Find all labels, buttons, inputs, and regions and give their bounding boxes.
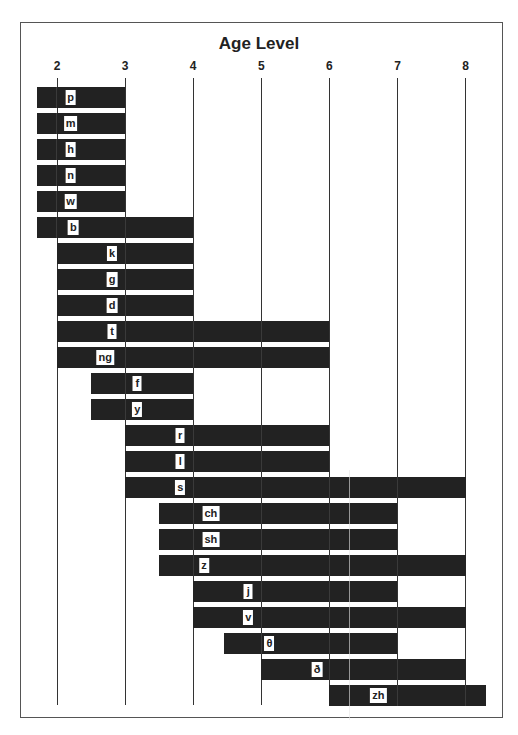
bar-grid-separator xyxy=(193,555,194,576)
bar-label: l xyxy=(176,454,185,469)
bar-grid-separator xyxy=(125,295,126,316)
bar-label: θ xyxy=(264,636,274,651)
bar-grid-separator xyxy=(329,529,330,550)
bar-grid-separator xyxy=(397,477,398,498)
bar-label: k xyxy=(107,246,117,261)
bar-grid-separator xyxy=(193,321,194,342)
range-bar: h xyxy=(37,139,126,160)
bar-grid-separator xyxy=(329,503,330,524)
bar-grid-separator xyxy=(329,659,330,680)
bar-label: m xyxy=(64,116,78,131)
range-bar: f xyxy=(91,373,193,394)
x-tick-label: 3 xyxy=(115,59,135,73)
bar-grid-separator xyxy=(125,243,126,264)
range-bar: l xyxy=(125,451,329,472)
bar-grid-separator xyxy=(397,685,398,706)
x-tick-label: 7 xyxy=(388,59,408,73)
range-bar: s xyxy=(125,477,466,498)
bar-grid-separator xyxy=(125,347,126,368)
bar-grid-separator xyxy=(125,321,126,342)
bar-grid-separator xyxy=(261,529,262,550)
bar-label: h xyxy=(65,142,76,157)
x-tick-label: 8 xyxy=(456,59,476,73)
bar-grid-separator xyxy=(261,347,262,368)
bar-grid-separator xyxy=(125,217,126,238)
bar-label: ð xyxy=(312,662,323,677)
bar-grid-separator xyxy=(193,425,194,446)
bar-grid-separator xyxy=(261,633,262,654)
range-bar: ð xyxy=(261,659,465,680)
bar-grid-separator xyxy=(261,321,262,342)
bar-grid-separator xyxy=(193,529,194,550)
bar-grid-separator xyxy=(261,555,262,576)
bar-label: n xyxy=(65,168,76,183)
bar-grid-separator xyxy=(193,451,194,472)
scan-artifact-line xyxy=(349,470,350,720)
range-bar: p xyxy=(37,87,126,108)
range-bar: b xyxy=(37,217,194,238)
bar-label: w xyxy=(64,194,77,209)
chart-title: Age Level xyxy=(0,34,518,54)
bar-grid-separator xyxy=(261,607,262,628)
x-tick-label: 2 xyxy=(47,59,67,73)
x-tick-label: 6 xyxy=(319,59,339,73)
range-bar: m xyxy=(37,113,126,134)
range-bar: v xyxy=(193,607,465,628)
bar-label: y xyxy=(132,402,142,417)
range-bar: y xyxy=(91,399,193,420)
bar-grid-separator xyxy=(56,191,57,212)
bar-grid-separator xyxy=(329,633,330,654)
bar-grid-separator xyxy=(56,87,57,108)
bar-grid-separator xyxy=(329,581,330,602)
bar-grid-separator xyxy=(329,607,330,628)
range-bar: w xyxy=(37,191,126,212)
range-bar: r xyxy=(125,425,329,446)
bar-grid-separator xyxy=(193,347,194,368)
range-bar: j xyxy=(193,581,397,602)
range-bar: n xyxy=(37,165,126,186)
bar-grid-separator xyxy=(56,139,57,160)
bar-grid-separator xyxy=(261,503,262,524)
bar-grid-separator xyxy=(261,451,262,472)
bar-grid-separator xyxy=(56,217,57,238)
bar-label: ch xyxy=(202,506,219,521)
bar-label: p xyxy=(65,90,76,105)
bar-label: sh xyxy=(202,532,219,547)
range-bar: θ xyxy=(224,633,398,654)
x-tick-label: 4 xyxy=(183,59,203,73)
bar-grid-separator xyxy=(329,477,330,498)
bar-label: r xyxy=(176,428,185,443)
range-bar: ng xyxy=(57,347,329,368)
bar-label: g xyxy=(107,272,118,287)
range-bar: g xyxy=(57,269,193,290)
bar-grid-separator xyxy=(125,373,126,394)
x-tick-label: 5 xyxy=(251,59,271,73)
bar-grid-separator xyxy=(125,269,126,290)
bar-grid-separator xyxy=(193,477,194,498)
range-bar: ch xyxy=(159,503,397,524)
bar-label: z xyxy=(199,558,209,573)
range-bar: z xyxy=(159,555,465,576)
bar-label: v xyxy=(243,610,253,625)
bar-grid-separator xyxy=(261,477,262,498)
range-bar: zh xyxy=(329,685,486,706)
bar-grid-separator xyxy=(261,581,262,602)
bar-grid-separator xyxy=(125,399,126,420)
bar-label: s xyxy=(175,480,185,495)
bar-grid-separator xyxy=(261,425,262,446)
bar-label: b xyxy=(68,220,79,235)
range-bar: k xyxy=(57,243,193,264)
range-bar: t xyxy=(57,321,329,342)
bar-label: zh xyxy=(370,688,386,703)
bar-grid-separator xyxy=(56,165,57,186)
bar-grid-separator xyxy=(56,113,57,134)
bar-label: d xyxy=(107,298,118,313)
bar-grid-separator xyxy=(397,659,398,680)
range-bar: sh xyxy=(159,529,397,550)
bar-grid-separator xyxy=(397,555,398,576)
bar-label: ng xyxy=(97,350,114,365)
bar-grid-separator xyxy=(465,685,466,706)
bar-label: f xyxy=(133,376,142,391)
bar-label: t xyxy=(108,324,117,339)
range-bar: d xyxy=(57,295,193,316)
